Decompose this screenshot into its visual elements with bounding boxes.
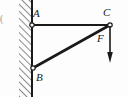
bracket-truss-figure: ( A B C F	[0, 0, 128, 97]
force-arrow-head	[107, 52, 113, 63]
joint-B-pin	[31, 66, 35, 70]
joint-label-C: C	[103, 7, 110, 18]
force-label-F: F	[97, 33, 104, 44]
force-vector-F	[107, 26, 113, 63]
wall-hatching	[19, 0, 32, 97]
joint-A-pin	[30, 23, 34, 27]
wall-support	[19, 0, 32, 97]
joint-label-B: B	[36, 72, 43, 83]
joint-label-A: A	[33, 8, 40, 19]
